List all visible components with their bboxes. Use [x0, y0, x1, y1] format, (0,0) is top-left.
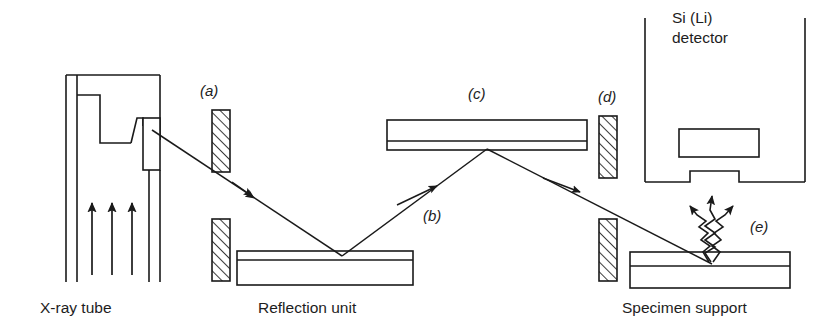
collimator-a — [212, 110, 230, 281]
monochromator-c — [387, 120, 587, 150]
diagram-svg — [0, 0, 825, 331]
collimator-d-lower-block — [599, 219, 617, 281]
xray-tube-body — [66, 75, 160, 282]
collimator-d — [599, 116, 617, 281]
beam-arrowhead-3 — [543, 178, 580, 192]
tube-inner-shelf — [77, 95, 131, 143]
specimen-support-body — [630, 252, 790, 288]
detector-title-line1: Si (Li) — [672, 8, 712, 27]
part-label-e: (e) — [750, 218, 768, 235]
caption-specimen-support: Specimen support — [622, 299, 747, 317]
tube-exit-window — [143, 118, 160, 170]
reflector-b-body — [237, 251, 413, 285]
detector-crystal — [679, 129, 759, 157]
collimator-a-lower-block — [212, 219, 230, 281]
collimator-a-upper-block — [212, 110, 230, 172]
beam-arrowhead-1 — [232, 182, 252, 196]
specimen-support-e — [630, 252, 790, 288]
figure-canvas: (a) (b) (c) (d) (e) Si (Li) detector X-r… — [0, 0, 825, 331]
beam-arrowhead-2 — [397, 186, 437, 205]
beam-segment-reflector-to-monochromator — [342, 149, 487, 256]
collimator-d-upper-block — [599, 116, 617, 178]
part-label-a: (a) — [200, 82, 218, 99]
beam-direction-markers — [232, 178, 580, 205]
detector-title-line2: detector — [672, 28, 728, 47]
part-label-d: (d) — [598, 88, 616, 105]
caption-reflection-unit: Reflection unit — [258, 299, 356, 317]
electron-beam-arrows — [92, 203, 132, 275]
part-label-b: (b) — [423, 207, 441, 224]
part-label-c: (c) — [468, 85, 486, 102]
monochromator-c-body — [387, 120, 587, 150]
caption-xray-tube: X-ray tube — [40, 299, 112, 317]
reflection-unit-b — [237, 251, 413, 285]
tube-anode-face — [131, 118, 143, 143]
detector-bottom-with-aperture — [645, 171, 805, 182]
